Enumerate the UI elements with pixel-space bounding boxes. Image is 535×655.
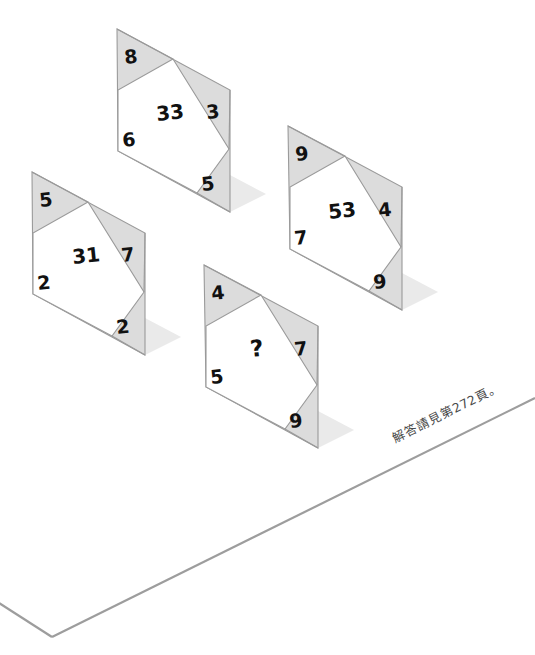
panel-31-corner-top-right: 7 [120,243,135,266]
answer-reference-caption: 解答請見第272頁。 [390,380,503,446]
panel-53-corner-top-right: 4 [377,198,392,221]
panel-question-corner-top-right: 7 [293,337,308,360]
panel-33-center-value: 33 [155,99,185,126]
panel-53: 9 4 7 9 53 [288,126,438,310]
panel-question-corner-top-left: 4 [210,281,225,304]
panel-question-corner-bottom-right: 9 [288,409,303,432]
panel-33-corner-top-left: 8 [123,45,138,68]
panel-53-corner-bottom-left: 7 [293,226,308,249]
panel-question-center-value: ? [249,335,265,362]
panel-33-corner-top-right: 3 [205,100,220,123]
panel-31-corner-bottom-right: 2 [115,315,130,338]
panel-33: 8 3 6 5 33 [117,29,266,212]
panel-question-corner-bottom-left: 5 [209,365,224,388]
ground-line-left [0,601,52,637]
panel-53-corner-bottom-right: 9 [372,270,387,293]
panel-33-corner-bottom-left: 6 [121,128,136,151]
panel-33-shadow [230,175,266,212]
panel-33-corner-bottom-right: 5 [200,172,215,195]
panel-31-shadow [145,318,181,355]
puzzle-canvas: 5 7 2 2 31 8 3 6 5 33 [0,0,535,655]
puzzle-illustration: 5 7 2 2 31 8 3 6 5 33 [0,0,535,655]
panel-31-center-value: 31 [71,242,101,269]
ground-plane [0,398,535,637]
panel-31: 5 7 2 2 31 [32,172,181,355]
panel-31-corner-bottom-left: 2 [36,271,51,294]
panel-53-center-value: 53 [327,197,357,224]
panel-53-corner-top-left: 9 [294,142,309,165]
panel-question: 4 7 5 9 ? [204,265,354,448]
panel-31-corner-top-left: 5 [38,188,53,211]
panel-53-shadow [402,273,438,310]
panel-question-shadow [318,411,354,448]
